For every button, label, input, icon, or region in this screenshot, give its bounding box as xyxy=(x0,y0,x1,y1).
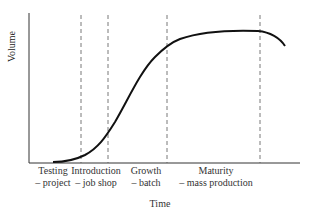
stage-process: – mass production xyxy=(176,177,256,189)
stage-maturity: Maturity – mass production xyxy=(176,165,256,189)
stage-name: Maturity xyxy=(176,165,256,177)
volume-curve xyxy=(53,31,285,162)
stage-process: – batch xyxy=(126,177,166,189)
stage-introduction: Introduction – job shop xyxy=(70,165,122,189)
stage-process: – job shop xyxy=(70,177,122,189)
stage-dividers xyxy=(81,15,260,163)
y-axis-label: Volume xyxy=(6,31,17,62)
stage-growth: Growth – batch xyxy=(126,165,166,189)
stage-name: Growth xyxy=(126,165,166,177)
x-axis-label: Time xyxy=(145,198,175,210)
stage-name: Introduction xyxy=(70,165,122,177)
